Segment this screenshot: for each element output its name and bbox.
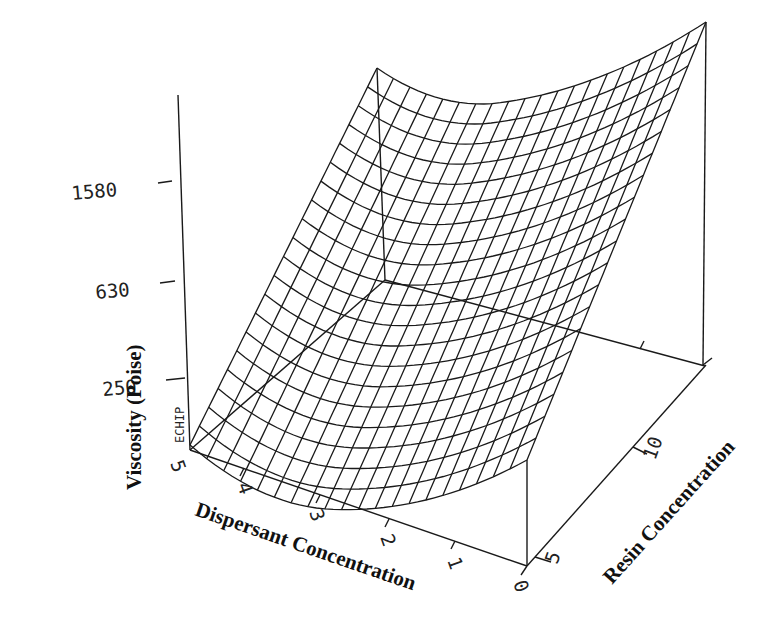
mesh-line: [274, 102, 459, 497]
mesh-line: [255, 307, 589, 367]
mesh-line: [284, 241, 617, 306]
mesh-line: [257, 99, 442, 490]
mesh-line: [476, 51, 656, 484]
wireframe-surface: [190, 22, 706, 510]
echip-watermark: ECHIP: [173, 407, 187, 443]
y-axis-title: Resin Concentration: [598, 435, 740, 589]
mesh-line: [207, 79, 394, 459]
y-tick-5: 5: [540, 548, 565, 566]
x-tick-4: 4: [233, 479, 258, 497]
y-tick-10: 10: [638, 433, 667, 462]
z-tick-630: 630: [94, 278, 130, 303]
mesh-line: [237, 351, 572, 408]
mesh-line: [293, 219, 626, 285]
mesh-line: [443, 67, 624, 496]
x-tick-1: 1: [443, 554, 468, 572]
z-axis-title: Viscosity (Poise): [122, 344, 146, 490]
back-axes: [190, 68, 705, 450]
mesh-line: [359, 95, 542, 509]
surface-plot: 1580 630 250 ECHIP 5 4 3 2 1 0 5 10 Visc…: [0, 0, 769, 630]
mesh-line: [291, 104, 476, 503]
x-tick-0: 0: [509, 577, 534, 595]
mesh-line: [409, 80, 591, 503]
mesh-line: [265, 285, 599, 346]
x-tick-3: 3: [305, 506, 330, 524]
x-tick-5: 5: [166, 457, 191, 475]
mesh-line: [510, 32, 689, 469]
mesh-line: [493, 42, 673, 477]
mesh-line: [190, 445, 527, 510]
z-tick-1580: 1580: [70, 178, 118, 204]
mesh-line: [224, 87, 410, 471]
x-tick-2: 2: [376, 531, 401, 549]
mesh-line: [377, 22, 706, 104]
mesh-line: [209, 407, 545, 468]
